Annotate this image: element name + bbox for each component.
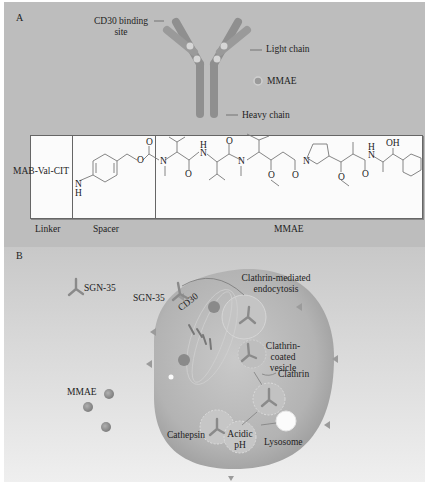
binding-site-callout: CD30 binding site [86, 16, 156, 38]
callout-line: site [86, 27, 156, 38]
atom-o: O [137, 155, 144, 166]
endocytosis-label: Clathrin-mediated endocytosis [236, 273, 316, 295]
panel-b: B [4, 247, 425, 482]
acidic-ph-label: Acidic pH [225, 429, 255, 451]
atom-oh: OH [386, 138, 400, 149]
light-chain-callout: Light chain [266, 44, 310, 55]
sgn35-bound-label: SGN-35 [133, 293, 165, 304]
label-line: pH [225, 440, 255, 451]
label-line: endocytosis [236, 284, 316, 295]
mmae-callout: MMAE [267, 76, 297, 87]
panel-a: A [4, 2, 425, 247]
section-label-linker: Linker [35, 224, 60, 235]
label-line: Clathrin-mediated [236, 273, 316, 284]
label-line: Acidic [225, 429, 255, 440]
chemical-structure-box: MAB-Val-CIT N H O O N O H N O N O O N O … [30, 135, 423, 219]
mmae-label: MMAE [67, 387, 97, 398]
cell-mechanism-diagram-icon [4, 247, 425, 482]
cathepsin-label: Cathepsin [167, 430, 205, 441]
section-label-mmae: MMAE [274, 224, 304, 235]
linker-formula: MAB-Val-CIT [13, 166, 69, 177]
atom-n: N [368, 150, 375, 161]
atom-o: O [268, 170, 275, 181]
sgn35-free-label: SGN-35 [84, 283, 116, 294]
atom-o: O [185, 169, 192, 180]
label-line: coated [258, 352, 308, 363]
atom-o: O [292, 170, 299, 181]
atom-o: O [226, 136, 233, 147]
atom-h: H [75, 188, 82, 199]
atom-o: O [146, 137, 153, 148]
atom-o: O [362, 169, 369, 180]
label-line: Clathrin- [258, 341, 308, 352]
clathrin-label: Clathrin [278, 369, 309, 380]
section-label-spacer: Spacer [93, 224, 119, 235]
antibody-diagram-icon [4, 2, 425, 132]
heavy-chain-callout: Heavy chain [242, 110, 290, 121]
lysosome-label: Lysosome [264, 437, 303, 448]
figure: A [4, 2, 425, 482]
atom-n: N [238, 156, 245, 167]
atom-n: N [160, 156, 167, 167]
callout-line: CD30 binding [86, 16, 156, 27]
atom-n: N [200, 148, 207, 159]
atom-o: O [338, 172, 345, 183]
atom-n: N [303, 156, 310, 167]
